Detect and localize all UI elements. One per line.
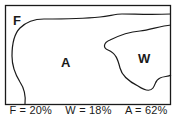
region-label-w: W — [138, 51, 151, 66]
caption: F = 20% W = 18% A = 62% — [0, 104, 177, 116]
caption-w: W = 18% — [65, 104, 111, 116]
region-label-f: F — [13, 13, 21, 28]
land-use-diagram: F A W — [0, 0, 177, 119]
caption-f: F = 20% — [9, 104, 52, 116]
region-label-a: A — [61, 55, 71, 70]
caption-a: A = 62% — [125, 104, 168, 116]
